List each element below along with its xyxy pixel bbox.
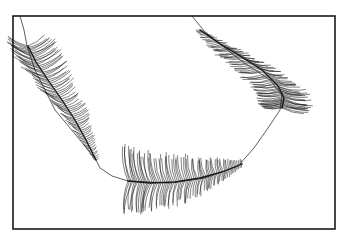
feather-barbs: [7, 35, 98, 160]
bottom-feather: [122, 144, 242, 214]
feather-tracing-illustration: [0, 0, 347, 241]
feather-barbs: [122, 144, 242, 214]
left-feather: [7, 35, 98, 160]
figure: [0, 0, 347, 241]
connecting-trace-line: [20, 16, 282, 183]
figure-frame: [13, 16, 335, 229]
right-feather: [196, 30, 312, 114]
feathers-group: [7, 30, 312, 214]
feather-rachis: [28, 46, 96, 160]
feather-barbs: [196, 30, 312, 114]
